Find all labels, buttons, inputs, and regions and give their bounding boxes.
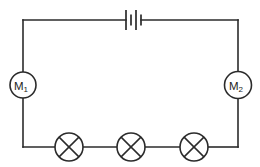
circuit-diagram-page: M1 M2 xyxy=(0,0,260,167)
lamp-3[interactable] xyxy=(180,133,208,161)
meter-m2[interactable]: M2 xyxy=(225,72,252,99)
circuit-wires xyxy=(23,20,238,147)
lamp-1[interactable] xyxy=(55,133,83,161)
circuit-diagram-canvas: M1 M2 xyxy=(0,0,260,167)
battery-symbol[interactable] xyxy=(126,10,141,30)
lamp-2[interactable] xyxy=(117,133,145,161)
meter-m1[interactable]: M1 xyxy=(10,72,36,98)
